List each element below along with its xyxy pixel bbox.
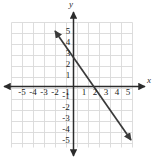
y-tick-label: -4 xyxy=(60,125,72,134)
y-tick-label: 5 xyxy=(62,27,74,36)
coordinate-plane-figure: y x -5 -4 -3 -2 -1 1 2 3 4 5 5 4 3 2 1 -… xyxy=(0,0,156,159)
y-tick-label: -1 xyxy=(60,92,72,101)
y-tick-label: 1 xyxy=(62,71,74,80)
y-tick-label: -5 xyxy=(60,136,72,145)
y-tick-label: 4 xyxy=(62,38,74,47)
y-tick-label: 3 xyxy=(62,49,74,58)
y-tick-label: 2 xyxy=(62,60,74,69)
x-tick-label: 5 xyxy=(122,88,134,97)
graph-canvas xyxy=(0,0,156,159)
y-tick-label: -2 xyxy=(60,103,72,112)
y-axis-label: y xyxy=(69,0,73,9)
y-tick-label: -3 xyxy=(60,114,72,123)
x-axis-label: x xyxy=(147,75,151,85)
